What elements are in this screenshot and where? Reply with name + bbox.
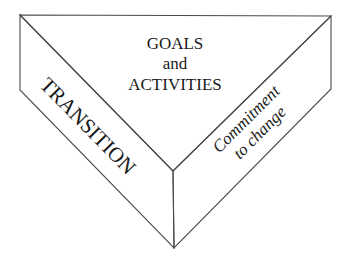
top-line-3: ACTIVITIES	[128, 75, 221, 94]
top-line-2: and	[163, 54, 188, 73]
prism-diagram: GOALS and ACTIVITIES TRANSITION Commitme…	[0, 0, 350, 265]
left-face-label: TRANSITION	[35, 73, 140, 180]
top-line-1: GOALS	[147, 34, 204, 53]
top-face-text: GOALS and ACTIVITIES	[128, 34, 221, 94]
